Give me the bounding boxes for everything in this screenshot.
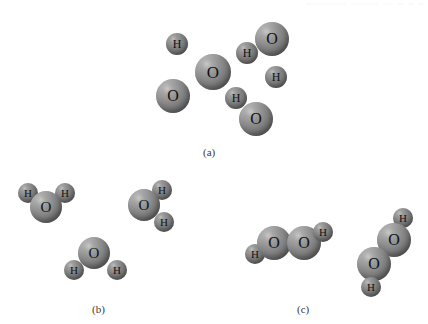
oxygen-atom-panel-c: O [357, 247, 391, 281]
molecular-models-figure: HOHOHOHO(a)HHOHOHOHH(b)HOOHHOOH(c) [0, 0, 428, 324]
panel-label-c: (c) [297, 303, 309, 315]
hydrogen-atom-panel-c: H [361, 277, 381, 297]
molecule-h2o2: HOOH [0, 0, 428, 324]
